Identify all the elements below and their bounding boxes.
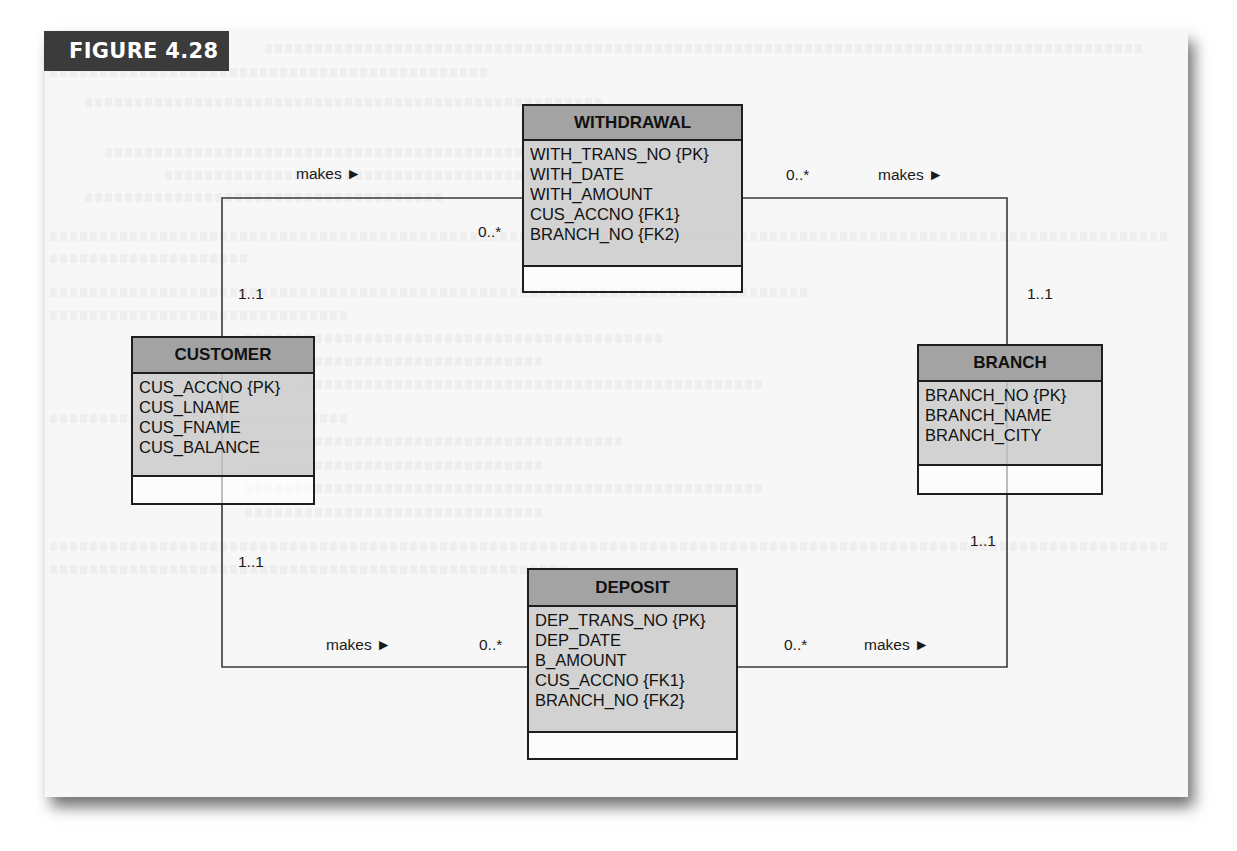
attribute: BRANCH_NO {FK2} <box>535 690 736 710</box>
attribute: CUS_ACCNO {FK1} <box>535 670 736 690</box>
entity-withdrawal: WITHDRAWAL WITH_TRANS_NO {PK} WITH_DATE … <box>522 104 743 293</box>
multiplicity-label: 0..* <box>784 636 807 654</box>
attribute: WITH_DATE <box>530 164 741 184</box>
attribute: DEP_TRANS_NO {PK} <box>535 610 736 630</box>
entity-branch-attributes: BRANCH_NO {PK} BRANCH_NAME BRANCH_CITY <box>919 382 1101 466</box>
entity-branch-operations <box>919 466 1101 493</box>
multiplicity-label: 1..1 <box>238 285 264 303</box>
entity-customer-title: CUSTOMER <box>133 338 313 374</box>
entity-deposit-title: DEPOSIT <box>529 570 736 607</box>
entity-customer-attributes: CUS_ACCNO {PK} CUS_LNAME CUS_FNAME CUS_B… <box>133 374 313 477</box>
entity-deposit-attributes: DEP_TRANS_NO {PK} DEP_DATE B_AMOUNT CUS_… <box>529 607 736 733</box>
entity-withdrawal-operations <box>524 267 741 291</box>
entity-customer: CUSTOMER CUS_ACCNO {PK} CUS_LNAME CUS_FN… <box>131 336 315 505</box>
relationship-verb: makes ► <box>864 636 929 654</box>
multiplicity-label: 1..1 <box>970 532 996 550</box>
multiplicity-label: 1..1 <box>238 553 264 571</box>
multiplicity-label: 1..1 <box>1027 285 1053 303</box>
attribute: CUS_LNAME <box>139 397 313 417</box>
attribute: CUS_FNAME <box>139 417 313 437</box>
entity-withdrawal-attributes: WITH_TRANS_NO {PK} WITH_DATE WITH_AMOUNT… <box>524 141 741 267</box>
attribute: BRANCH_NAME <box>925 405 1101 425</box>
attribute: CUS_ACCNO {FK1} <box>530 204 741 224</box>
attribute: CUS_ACCNO {PK} <box>139 377 313 397</box>
attribute: DEP_DATE <box>535 630 736 650</box>
attribute: WITH_TRANS_NO {PK} <box>530 144 741 164</box>
multiplicity-label: 0..* <box>479 636 502 654</box>
entity-deposit: DEPOSIT DEP_TRANS_NO {PK} DEP_DATE B_AMO… <box>527 568 738 760</box>
relationship-verb: makes ► <box>326 636 391 654</box>
figure-label: FIGURE 4.28 <box>44 31 229 71</box>
entity-branch: BRANCH BRANCH_NO {PK} BRANCH_NAME BRANCH… <box>917 344 1103 495</box>
attribute: WITH_AMOUNT <box>530 184 741 204</box>
relationship-verb: makes ► <box>878 166 943 184</box>
relationship-verb: makes ► <box>296 165 361 183</box>
attribute: B_AMOUNT <box>535 650 736 670</box>
entity-withdrawal-title: WITHDRAWAL <box>524 106 741 141</box>
entity-branch-title: BRANCH <box>919 346 1101 382</box>
attribute: BRANCH_NO {FK2) <box>530 224 741 244</box>
multiplicity-label: 0..* <box>786 166 809 184</box>
entity-customer-operations <box>133 477 313 503</box>
attribute: BRANCH_NO {PK} <box>925 385 1101 405</box>
attribute: CUS_BALANCE <box>139 437 313 457</box>
attribute: BRANCH_CITY <box>925 425 1101 445</box>
multiplicity-label: 0..* <box>478 223 501 241</box>
entity-deposit-operations <box>529 733 736 758</box>
